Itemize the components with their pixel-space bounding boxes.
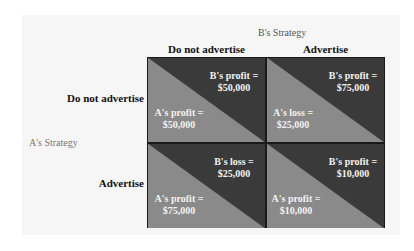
column-header-advertise: Advertise — [266, 43, 385, 55]
payoff-cell-no-no: B's profit =$50,000 A's profit =$50,000 — [147, 57, 266, 143]
a-payoff: A's profit =$75,000 — [149, 193, 209, 217]
a-payoff: A's profit =$10,000 — [268, 193, 324, 217]
a-strategy-label: A's Strategy — [29, 137, 78, 148]
b-payoff: B's profit =$75,000 — [324, 70, 382, 94]
payoff-cell-no-adv: B's profit =$75,000 A's loss =$25,000 — [266, 57, 385, 143]
payoff-matrix: B's profit =$50,000 A's profit =$50,000 … — [147, 57, 385, 228]
b-strategy-label: B's Strategy — [258, 27, 306, 38]
column-header-do-not-advertise: Do not advertise — [147, 43, 266, 55]
a-payoff: A's profit =$50,000 — [149, 107, 209, 131]
a-payoff: A's loss =$25,000 — [268, 107, 318, 131]
b-payoff: B's loss =$25,000 — [205, 156, 263, 180]
payoff-cell-adv-no: B's loss =$25,000 A's profit =$75,000 — [147, 143, 266, 229]
b-payoff: B's profit =$50,000 — [205, 70, 263, 94]
payoff-cell-adv-adv: B's profit =$10,000 A's profit =$10,000 — [266, 143, 385, 229]
row-header-advertise: Advertise — [24, 177, 144, 189]
row-header-do-not-advertise: Do not advertise — [24, 92, 144, 104]
b-payoff: B's profit =$10,000 — [324, 156, 382, 180]
